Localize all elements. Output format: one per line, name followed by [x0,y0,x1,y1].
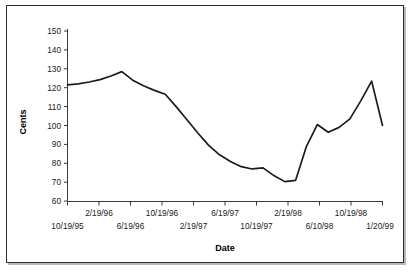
line-chart: 150 140 130 120 110 100 90 80 70 60 2/19… [0,0,413,273]
x-tick-label: 6/19/97 [211,208,239,218]
data-series-line [68,72,383,182]
x-tick-label: 2/19/96 [85,208,113,218]
y-tick-label: 90 [52,139,62,149]
x-tick-labels-upper: 2/19/96 10/19/96 6/19/97 2/19/98 10/19/9… [85,208,367,218]
x-tick-label: 2/19/98 [274,208,302,218]
x-tick-label: 10/19/96 [146,208,179,218]
x-tick-label: 6/10/98 [306,221,334,231]
x-axis-title: Date [215,243,235,253]
x-tick-label: 2/19/97 [180,221,208,231]
y-tick-label: 80 [52,158,62,168]
y-tick-label: 100 [47,121,61,131]
y-axis-title: Cents [18,109,28,134]
x-tick-label: 6/19/96 [117,221,145,231]
x-tick-label: 10/19/95 [51,221,84,231]
y-tick-label: 60 [52,196,62,206]
y-tick-labels: 150 140 130 120 110 100 90 80 70 60 [47,26,61,206]
x-tick-marks [68,202,383,206]
y-tick-label: 110 [48,102,62,112]
figure-root: 150 140 130 120 110 100 90 80 70 60 2/19… [0,0,413,273]
y-tick-label: 120 [47,83,61,93]
x-tick-label: 10/19/98 [335,208,368,218]
x-tick-labels-lower: 10/19/95 6/19/96 2/19/97 10/19/97 6/10/9… [51,221,394,231]
y-tick-label: 70 [52,177,62,187]
y-tick-label: 130 [47,64,61,74]
y-tick-marks [64,31,68,201]
x-tick-label: 10/19/97 [240,221,273,231]
y-tick-label: 140 [47,45,61,55]
y-tick-label: 150 [47,26,61,36]
x-tick-label: 1/20/99 [366,221,394,231]
